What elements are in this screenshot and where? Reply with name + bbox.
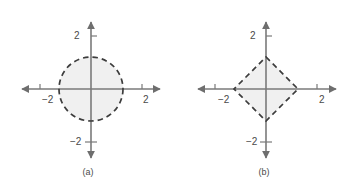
x-axis-label-negative: −2 [218,95,229,105]
y-axis-label-negative: −2 [246,137,257,147]
panel-a: −2 2 2 −2 (a) [0,0,176,196]
panel-caption-b: (b) [176,168,352,177]
y-axis-label-positive: 2 [74,31,80,41]
y-axis-label-negative: −2 [70,137,81,147]
y-axis-label-positive: 2 [250,31,256,41]
x-axis-label-positive: 2 [143,95,149,105]
figure-root: −2 2 2 −2 (a) −2 [0,0,352,196]
x-axis-label-negative: −2 [42,95,53,105]
panel-caption-a: (a) [0,168,176,177]
x-axis-label-positive: 2 [319,95,325,105]
panel-b: −2 2 2 −2 (b) [176,0,352,196]
